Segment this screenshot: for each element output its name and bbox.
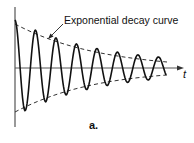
- x-axis-label: t: [183, 68, 186, 80]
- annotation-label: Exponential decay curve: [64, 14, 178, 26]
- lower-envelope-curve: [15, 75, 167, 112]
- damped-oscillation-curve: [15, 20, 166, 111]
- panel-label: a.: [89, 119, 98, 131]
